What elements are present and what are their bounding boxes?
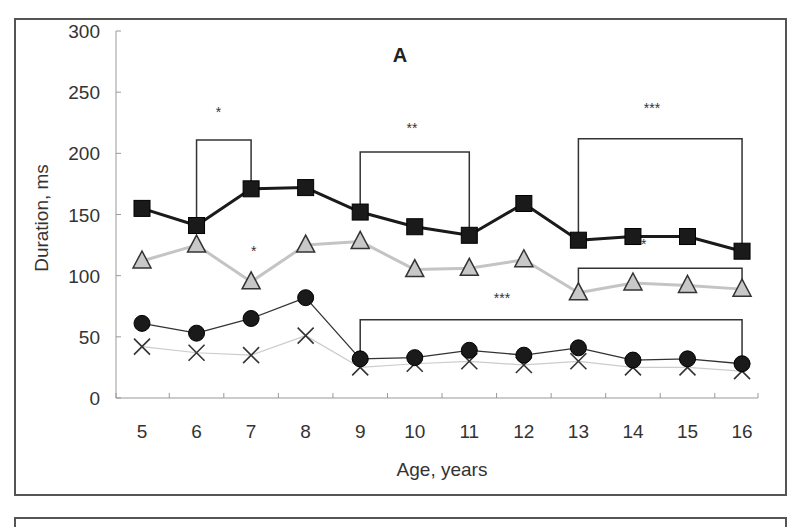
- circle-marker: [243, 310, 259, 326]
- square-marker: [243, 181, 259, 197]
- x-axis-label: Age, years: [397, 459, 488, 480]
- x-tick-label: 9: [355, 421, 366, 442]
- y-axis-label: Duration, ms: [31, 164, 52, 272]
- series-line-triangles: [142, 241, 742, 292]
- y-tick-label: 150: [68, 205, 100, 226]
- circle-marker: [734, 356, 750, 372]
- square-marker: [516, 195, 532, 211]
- triangle-marker: [188, 235, 206, 252]
- circle-marker: [189, 325, 205, 341]
- x-tick-label: 16: [731, 421, 752, 442]
- triangle-marker: [242, 272, 260, 289]
- x-tick-label: 14: [622, 421, 644, 442]
- x-tick-label: 15: [677, 421, 698, 442]
- triangle-marker: [351, 231, 369, 248]
- x-tick-label: 8: [300, 421, 311, 442]
- significance-bracket: [578, 139, 742, 252]
- chart-labels: A Age, years Duration, ms: [31, 44, 487, 480]
- square-marker: [298, 180, 314, 196]
- square-marker: [407, 219, 423, 235]
- significance-marker: ***: [644, 100, 661, 116]
- x-tick-label: 10: [404, 421, 425, 442]
- significance-marker: **: [407, 120, 418, 136]
- circle-marker: [134, 315, 150, 331]
- series-line-squares: [142, 188, 742, 252]
- x-marker: [298, 328, 314, 344]
- panel-label: A: [393, 44, 407, 66]
- triangle-marker: [624, 273, 642, 290]
- y-tick-label: 100: [68, 266, 100, 287]
- triangle-marker: [515, 250, 533, 267]
- significance-marker: *: [216, 104, 222, 120]
- circle-marker: [298, 290, 314, 306]
- significance-marker: *: [251, 243, 257, 259]
- square-marker: [461, 227, 477, 243]
- circle-marker: [680, 351, 696, 367]
- square-marker: [189, 218, 205, 234]
- square-marker: [625, 229, 641, 245]
- x-tick-label: 6: [191, 421, 202, 442]
- circle-marker: [570, 340, 586, 356]
- circle-marker: [516, 347, 532, 363]
- x-tick-label: 5: [137, 421, 148, 442]
- circle-marker: [625, 352, 641, 368]
- circle-marker: [461, 342, 477, 358]
- x-marker: [134, 339, 150, 355]
- x-tick-label: 7: [246, 421, 257, 442]
- y-tick-label: 50: [79, 327, 100, 348]
- square-marker: [734, 243, 750, 259]
- circle-marker: [407, 350, 423, 366]
- significance-marker: ***: [494, 290, 511, 306]
- x-tick-label: 12: [513, 421, 534, 442]
- square-marker: [680, 229, 696, 245]
- circle-marker: [352, 351, 368, 367]
- x-tick-label: 13: [568, 421, 589, 442]
- y-tick-label: 200: [68, 143, 100, 164]
- square-marker: [352, 204, 368, 220]
- y-tick-label: 300: [68, 21, 100, 42]
- data-series: [133, 180, 751, 379]
- x-tick-label: 11: [459, 421, 479, 442]
- y-tick-label: 250: [68, 82, 100, 103]
- square-marker: [570, 232, 586, 248]
- square-marker: [134, 200, 150, 216]
- y-tick-label: 0: [89, 388, 100, 409]
